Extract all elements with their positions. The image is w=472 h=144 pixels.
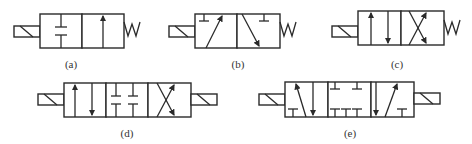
valve-position-2 — [237, 14, 280, 48]
valve-position-1 — [285, 82, 328, 117]
valve-b: (b) — [169, 14, 296, 71]
spring-icon — [124, 22, 140, 36]
valve-c: (c) — [332, 11, 460, 71]
valve-position-3 — [148, 83, 191, 117]
label-e: (e) — [344, 127, 357, 140]
label-c: (c) — [391, 58, 404, 71]
spring-icon — [444, 20, 460, 34]
valve-position-1 — [64, 83, 106, 117]
valve-position-2 — [401, 11, 444, 45]
valve-symbols-figure: (a) (b) (c) — [0, 0, 472, 144]
valve-position-1 — [195, 14, 237, 48]
valve-position-2 — [106, 83, 148, 117]
valve-e: (e) — [259, 82, 440, 140]
label-d: (d) — [121, 127, 134, 140]
valve-position-1 — [358, 11, 401, 45]
valve-a: (a) — [14, 14, 140, 71]
label-b: (b) — [232, 58, 245, 71]
label-a: (a) — [65, 58, 78, 71]
valve-d: (d) — [38, 83, 217, 140]
valve-position-3 — [371, 82, 414, 117]
spring-icon — [280, 22, 296, 36]
